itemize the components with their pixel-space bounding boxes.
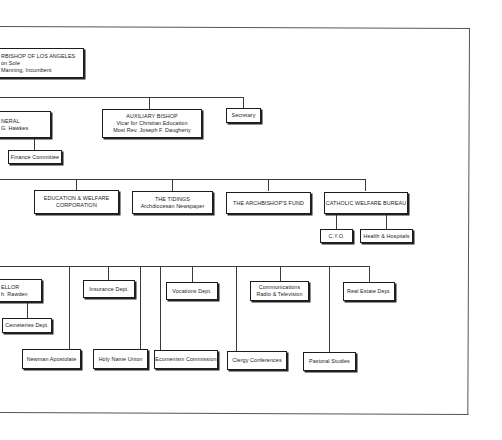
finance-committee-box: Finance Committee [8, 150, 62, 164]
node-title: ELLOR [1, 284, 41, 291]
connector [386, 213, 387, 229]
connector [172, 179, 173, 191]
pastoral-studies-box: Pastoral Studies [303, 352, 356, 371]
education-welfare-box: EDUCATION & WELFARE CORPORATION [34, 190, 119, 214]
node-title: Vocations Dept. [167, 288, 217, 295]
node-subtitle: Archdiocesan Newspaper [133, 203, 212, 210]
node-title: Newman Apostolate [23, 356, 80, 363]
node-title: Ecumenism Commission [155, 356, 217, 363]
connector [243, 97, 244, 108]
node-subtitle: Vicar for Christian Education [103, 120, 201, 127]
clergy-conferences-box: Clergy Conferences [227, 351, 287, 370]
holy-name-box: Holy Name Union [93, 349, 148, 369]
communications-box: Communications Radio & Television [250, 281, 309, 301]
connector [329, 266, 330, 354]
connector [268, 179, 269, 191]
node-title: AUXILIARY BISHOP [103, 113, 201, 120]
connector [365, 179, 366, 191]
node-incumbent: Manning, Incumbent [1, 67, 83, 74]
node-title: CATHOLIC WELFARE BUREAU [325, 200, 407, 207]
connector [34, 138, 35, 150]
node-title: Real Estate Dept. [344, 288, 394, 295]
node-title: NERAL [1, 118, 50, 125]
node-incumbent: Most Rev. Joseph F. Daugherty [103, 127, 201, 134]
newman-box: Newman Apostolate [22, 349, 81, 369]
auxiliary-bishop-box: AUXILIARY BISHOP Vicar for Christian Edu… [102, 109, 202, 138]
ecumenism-box: Ecumenism Commission [154, 350, 218, 369]
connector [280, 266, 281, 282]
the-tidings-box: THE TIDINGS Archdiocesan Newspaper [132, 191, 213, 214]
node-title: Pastoral Studies [304, 358, 355, 365]
connector [108, 266, 109, 280]
connector [0, 266, 370, 267]
secretary-box: Secretary [226, 108, 261, 123]
node-title: Health & Hospitals [361, 233, 412, 240]
chancellor-box: ELLOR h. Rawden [0, 279, 42, 302]
node-title: C.Y.O. [321, 233, 352, 240]
connector [0, 97, 243, 98]
cyo-box: C.Y.O. [320, 229, 353, 243]
node-incumbent: G. Hawkes [1, 125, 50, 132]
node-subtitle: Radio & Television [251, 291, 308, 298]
node-title: Secretary [227, 112, 260, 119]
connector [69, 266, 70, 354]
node-title: THE TIDINGS [133, 196, 212, 203]
connector [369, 266, 370, 282]
node-title: Communications [251, 284, 308, 291]
node-title: RBISHOP OF LOS ANGELES [1, 53, 83, 60]
node-title: Finance Committee [9, 154, 61, 161]
health-hospitals-box: Health & Hospitals [360, 229, 413, 243]
insurance-box: Insurance Dept. [83, 280, 135, 298]
node-title: THE ARCHBISHOP'S FUND [227, 200, 310, 207]
real-estate-box: Real Estate Dept. [343, 282, 395, 301]
connector [0, 179, 366, 180]
node-incumbent: h. Rawden [1, 291, 41, 298]
connector [27, 302, 28, 318]
node-subtitle: CORPORATION [35, 202, 118, 209]
node-title: Insurance Dept. [84, 286, 134, 293]
connector [192, 266, 193, 282]
cemeteries-box: Cemeteries Dept. [2, 318, 52, 333]
connector [140, 266, 141, 354]
archbishops-fund-box: THE ARCHBISHOP'S FUND [226, 192, 311, 214]
node-title: Clergy Conferences [228, 357, 286, 364]
connector [236, 266, 237, 354]
connector [336, 213, 337, 229]
node-title: Holy Name Union [94, 356, 147, 363]
node-title: EDUCATION & WELFARE [35, 195, 118, 202]
catholic-welfare-bureau-box: CATHOLIC WELFARE BUREAU [324, 192, 408, 214]
node-subtitle: on Sole [1, 60, 83, 67]
node-title: Cemeteries Dept. [3, 322, 51, 329]
vicar-general-box: NERAL G. Hawkes [0, 111, 51, 138]
connector [160, 266, 161, 354]
vocations-box: Vocations Dept. [166, 282, 218, 300]
archbishop-box: RBISHOP OF LOS ANGELES on Sole Manning, … [0, 48, 84, 78]
